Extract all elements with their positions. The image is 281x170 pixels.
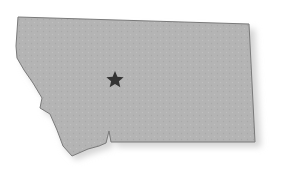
montana-shape — [16, 17, 255, 156]
montana-map — [0, 0, 281, 170]
state-locator-map — [0, 0, 281, 170]
